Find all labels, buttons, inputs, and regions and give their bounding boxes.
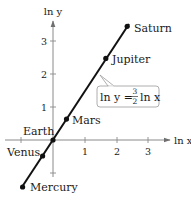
- y-tick-label-1: 1: [41, 102, 47, 113]
- point-mars: [64, 117, 69, 122]
- y-axis-label: ln y: [44, 6, 63, 17]
- y-tick-label-2: 2: [41, 69, 47, 80]
- x-tick-label-2: 2: [114, 146, 120, 157]
- chart: 1 2 3 ln x 3 2 1 ln y Mercury Venus Eart…: [0, 0, 191, 200]
- point-mercury: [20, 184, 25, 189]
- x-tick-label-1: 1: [82, 146, 88, 157]
- equation-denominator: 2: [133, 97, 138, 106]
- label-earth: Earth: [23, 125, 54, 138]
- point-jupiter: [103, 56, 108, 61]
- point-earth: [50, 137, 55, 142]
- x-axis-label: ln x: [174, 135, 191, 146]
- label-mercury: Mercury: [30, 181, 79, 194]
- equation-lhs: ln y =: [100, 91, 133, 104]
- y-tick-label-3: 3: [41, 36, 47, 47]
- label-venus: Venus: [6, 146, 41, 159]
- equation-callout: ln y = 3 2 ln x: [97, 75, 161, 107]
- equation-rhs: ln x: [140, 91, 161, 104]
- equation-numerator: 3: [133, 87, 138, 96]
- label-saturn: Saturn: [134, 22, 172, 35]
- point-venus: [40, 153, 45, 158]
- label-jupiter: Jupiter: [111, 53, 151, 66]
- label-mars: Mars: [72, 114, 101, 127]
- x-tick-label-3: 3: [145, 146, 151, 157]
- point-saturn: [125, 24, 130, 29]
